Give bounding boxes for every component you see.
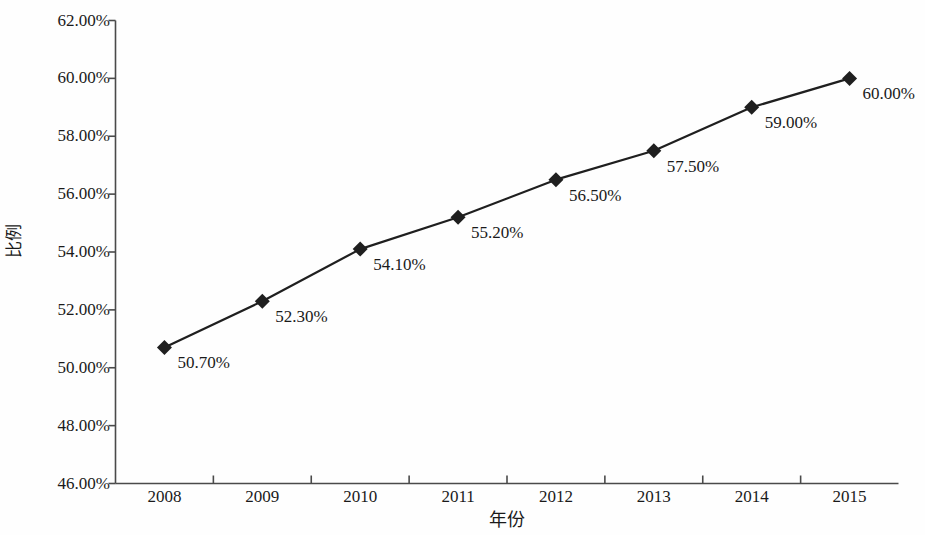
data-point-marker [451, 210, 466, 225]
x-axis-tick-label: 2012 [507, 487, 605, 506]
data-point-label: 57.50% [667, 158, 719, 175]
x-axis-tick-label: 2009 [213, 487, 311, 506]
x-axis-ticks [213, 476, 800, 484]
series-markers [157, 71, 857, 355]
x-axis-title: 年份 [115, 505, 898, 531]
data-point-label: 60.00% [863, 85, 915, 102]
x-axis-tick-label: 2014 [703, 487, 801, 506]
data-point-label: 50.70% [177, 354, 229, 371]
data-point-label: 55.20% [471, 224, 523, 241]
data-point-marker [842, 71, 857, 86]
line-chart: 比例 62.00%60.00%58.00%56.00%54.00%52.00%5… [0, 0, 925, 535]
data-point-marker [353, 242, 368, 257]
y-axis-ticks [109, 21, 116, 484]
data-point-label: 59.00% [765, 114, 817, 131]
data-point-marker [255, 294, 270, 309]
data-point-marker [744, 100, 759, 115]
x-axis-tick-label: 2011 [409, 487, 507, 506]
series-line [164, 78, 849, 347]
plot-area [0, 0, 925, 535]
data-point-label: 54.10% [373, 256, 425, 273]
x-axis-tick-label: 2010 [311, 487, 409, 506]
x-axis-tick-label: 2015 [801, 487, 899, 506]
data-point-marker [157, 340, 172, 355]
data-point-marker [646, 143, 661, 158]
data-point-marker [548, 172, 563, 187]
axes [116, 21, 899, 484]
x-axis-tick-label: 2008 [115, 487, 213, 506]
data-point-label: 56.50% [569, 187, 621, 204]
x-axis-tick-label: 2013 [605, 487, 703, 506]
data-point-label: 52.30% [275, 308, 327, 325]
